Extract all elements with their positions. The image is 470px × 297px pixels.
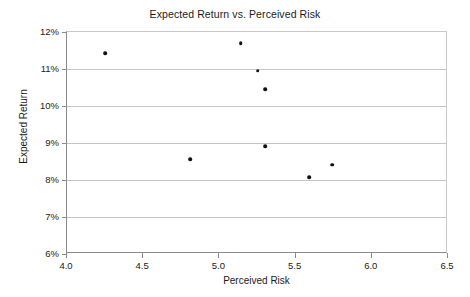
x-tick-label: 5.0 [212,261,225,271]
y-tick-label: 10% [40,101,59,111]
data-point [189,157,193,161]
y-tick-label: 8% [45,175,59,185]
y-tick-label: 6% [45,249,59,259]
x-tick-label: 6.5 [440,261,453,271]
plot-area: 6%7%8%9%10%11%12% [66,31,447,253]
x-tick-mark [295,253,296,258]
x-axis-label: Perceived Risk [66,275,447,286]
gridline [67,106,446,107]
gridline [67,143,446,144]
y-tick-mark [62,217,67,218]
y-tick-label: 11% [41,64,59,74]
gridline [67,217,446,218]
y-tick-mark [62,69,67,70]
x-tick-label: 5.5 [288,261,301,271]
data-point [263,144,267,148]
y-tick-mark [62,106,67,107]
data-point [239,41,243,45]
x-tick-label: 4.0 [59,261,72,271]
y-tick-mark [62,32,67,33]
chart-title: Expected Return vs. Perceived Risk [0,8,470,20]
y-tick-mark [62,180,67,181]
data-point [103,51,107,55]
x-tick-mark [142,253,143,258]
data-point [308,175,312,179]
x-tick-mark [66,253,67,258]
x-tick-label: 4.5 [136,261,149,271]
data-point [263,87,267,91]
y-tick-mark [62,143,67,144]
x-tick-mark [218,253,219,258]
y-tick-label: 9% [45,138,59,148]
x-tick-mark [371,253,372,258]
y-tick-label: 12% [40,27,59,37]
x-tick-label: 6.0 [364,261,377,271]
scatter-chart: Expected Return vs. Perceived Risk 6%7%8… [0,0,470,297]
y-tick-label: 7% [45,212,59,222]
x-tick-mark [447,253,448,258]
data-point [256,69,260,73]
gridline [67,180,446,181]
data-point [330,163,334,167]
y-axis-label: Expected Return [18,57,29,197]
